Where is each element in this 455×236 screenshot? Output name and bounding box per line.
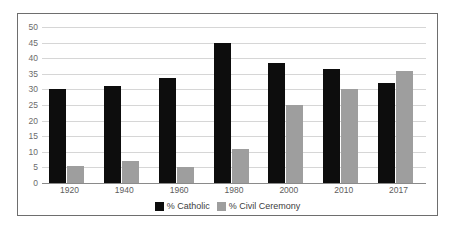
bar [268,63,285,183]
bar [396,71,413,183]
bar-group [97,27,152,183]
y-axis-tick-label: 25 [16,101,38,110]
bar [378,83,395,183]
bar-group [261,27,316,183]
y-axis-tick-label: 0 [16,179,38,188]
bar [286,105,303,183]
legend-swatch [217,202,226,211]
y-axis-tick-label: 35 [16,70,38,79]
bar [214,43,231,183]
y-axis-tick-label: 45 [16,39,38,48]
x-axis-tick-label: 1940 [97,186,151,195]
bar [341,89,358,183]
x-axis-tick-labels: 1920194019601980200020102017 [42,186,426,200]
legend-entry: % Civil Ceremony [217,202,301,211]
bar [232,149,249,183]
chart-legend: % Catholic% Civil Ceremony [0,202,455,211]
y-axis-tick-label: 20 [16,117,38,126]
bar-group [207,27,262,183]
x-axis-tick-label: 2000 [262,186,316,195]
x-axis-tick-label: 1920 [42,186,96,195]
legend-label: % Civil Ceremony [229,202,301,211]
legend-entry: % Catholic [155,202,210,211]
bar [67,166,84,183]
legend-label: % Catholic [167,202,210,211]
gridline [42,183,426,184]
y-axis-tick-label: 40 [16,54,38,63]
bar [159,78,176,183]
bar-group [152,27,207,183]
chart-plot-area [42,27,426,183]
x-axis-tick-label: 2017 [372,186,426,195]
bar-group [42,27,97,183]
y-axis-tick-labels: 50454035302520151050 [14,27,38,183]
bar [177,167,194,183]
bar [49,89,66,183]
y-axis-tick-label: 15 [16,132,38,141]
x-axis-tick-label: 1980 [207,186,261,195]
y-axis-tick-label: 10 [16,148,38,157]
x-axis-tick-label: 1960 [152,186,206,195]
bar-chart-figure: 50454035302520151050 1920194019601980200… [0,0,455,236]
x-axis-tick-label: 2010 [317,186,371,195]
y-axis-tick-label: 50 [16,23,38,32]
bar-group [371,27,426,183]
bar [104,86,121,183]
legend-swatch [155,202,164,211]
bar [122,161,139,183]
bar-group [316,27,371,183]
y-axis-tick-label: 30 [16,85,38,94]
bar [323,69,340,183]
y-axis-tick-label: 5 [16,163,38,172]
